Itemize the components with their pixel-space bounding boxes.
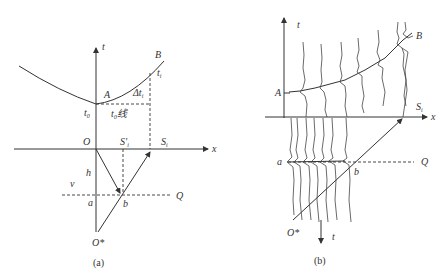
label-t: t <box>102 41 105 52</box>
label-B: B <box>155 49 161 60</box>
label-a: a <box>88 197 93 208</box>
caption-b: (b) <box>314 255 326 267</box>
label-O: O <box>83 136 90 147</box>
label-b: b <box>123 198 128 209</box>
seismic-traces-lower <box>287 118 351 222</box>
label-x-b: x <box>430 111 436 122</box>
label-t-bottom: t <box>332 231 335 242</box>
panel-a: t x B ti A Δti t0 t₀线 O S′i Si h v a b Q… <box>14 41 217 269</box>
label-a-b: a <box>277 156 282 167</box>
label-O-star-b: O* <box>287 227 299 238</box>
label-h: h <box>86 167 91 178</box>
label-delta-t: Δti <box>132 87 144 99</box>
label-t-top: t <box>297 19 300 30</box>
label-Si: Si <box>161 136 168 148</box>
incident-ray <box>96 149 120 193</box>
caption-a: (a) <box>93 257 104 269</box>
diagram-canvas: t x B ti A Δti t0 t₀线 O S′i Si h v a b Q… <box>0 0 447 280</box>
label-A: A <box>103 89 111 100</box>
reflection-event-AB <box>289 33 412 92</box>
label-O-star: O* <box>92 237 104 248</box>
label-b-b: b <box>354 166 359 177</box>
seismic-traces-upper <box>300 22 413 117</box>
label-Q-b: Q <box>421 156 429 167</box>
label-x: x <box>211 143 217 154</box>
label-ti: ti <box>157 67 162 79</box>
label-t0: t0 <box>84 107 90 119</box>
label-B-b: B <box>416 30 422 41</box>
label-Si-b: Si <box>416 101 423 113</box>
label-Si-prime: S′i <box>120 136 129 148</box>
label-t0-line: t₀线 <box>111 108 128 119</box>
label-A-b: A <box>274 87 282 98</box>
label-Q: Q <box>176 190 184 201</box>
reflected-ray <box>98 152 150 232</box>
label-v: v <box>70 178 75 189</box>
panel-b: t B A Si x a b Q O* t (b) <box>265 18 436 267</box>
